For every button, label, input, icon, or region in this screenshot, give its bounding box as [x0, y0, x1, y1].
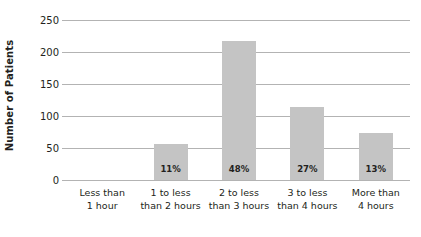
x-tick-label-line: 4 hours [342, 199, 410, 212]
bar-slot: 27% [273, 20, 341, 180]
bar-percentage-label: 48% [229, 164, 249, 174]
bar-slot: 13% [342, 20, 410, 180]
y-tick-label: 150 [40, 79, 59, 90]
y-tick-label: 100 [40, 111, 59, 122]
y-tick-label: 0 [53, 175, 59, 186]
x-tick-label: 3 to lessthan 4 hours [273, 186, 341, 212]
x-tick-label: 1 to lessthan 2 hours [136, 186, 204, 212]
x-tick-label-line: More than [342, 186, 410, 199]
bar-slot [68, 20, 136, 180]
x-tick-label-line: than 4 hours [273, 199, 341, 212]
y-axis-title: Number of Patients [0, 0, 20, 190]
x-axis-labels: Less than1 hour1 to lessthan 2 hours2 to… [68, 186, 410, 226]
x-tick-label: More than4 hours [342, 186, 410, 212]
x-tick-label-line: 3 to less [273, 186, 341, 199]
y-tick-label: 50 [46, 143, 59, 154]
x-tick-label: 2 to lessthan 3 hours [205, 186, 273, 212]
bar-percentage-label: 27% [297, 164, 317, 174]
bar-percentage-label: 13% [366, 164, 386, 174]
y-axis-title-text: Number of Patients [5, 39, 16, 150]
plot-area: 250200150100500 11%48%27%13% [68, 20, 410, 180]
x-tick-label-line: than 2 hours [136, 199, 204, 212]
x-tick-label-line: Less than [68, 186, 136, 199]
bar-percentage-label: 11% [160, 164, 180, 174]
x-tick-label-line: 1 hour [68, 199, 136, 212]
y-tick-label: 200 [40, 47, 59, 58]
bar-slot: 48% [205, 20, 273, 180]
y-tick-label: 250 [40, 15, 59, 26]
x-tick-label: Less than1 hour [68, 186, 136, 212]
x-tick-label-line: 2 to less [205, 186, 273, 199]
x-tick-label-line: than 3 hours [205, 199, 273, 212]
bar[interactable] [222, 41, 256, 180]
bar-chart: Number of Patients 250200150100500 11%48… [0, 0, 421, 237]
bars: 11%48%27%13% [68, 20, 410, 180]
bar-slot: 11% [136, 20, 204, 180]
x-axis-line [68, 180, 410, 181]
x-tick-label-line: 1 to less [136, 186, 204, 199]
bar[interactable] [154, 144, 188, 180]
